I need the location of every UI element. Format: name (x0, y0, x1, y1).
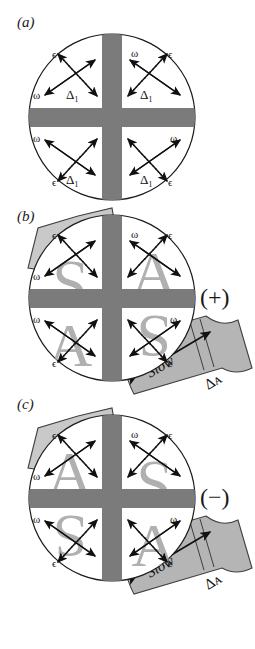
panel-a-diagram: ϵ ω Δ₁ ϵ ω Δ₁ ϵ ω Δ₁ ϵ ω Δ₁ (0, 0, 255, 205)
epsilon-label: ϵ (52, 557, 57, 569)
omega-label: ω (131, 47, 138, 59)
omega-label: ω (33, 270, 40, 282)
omega-label: ω (170, 513, 177, 525)
delta-label: Δ₁ (66, 172, 79, 187)
omega-label: ω (33, 132, 40, 144)
epsilon-label: ϵ (168, 357, 173, 369)
omega-label: ω (33, 470, 40, 482)
epsilon-label: ϵ (52, 357, 57, 369)
omega-label: ω (170, 313, 177, 325)
epsilon-label: ϵ (52, 48, 57, 60)
epsilon-label: ϵ (168, 48, 173, 60)
delta-label: Δ₁ (140, 172, 153, 187)
epsilon-label: ϵ (52, 429, 57, 441)
panel-c-diagram: Slow Δᴀ A S S A (0, 396, 255, 649)
delta-label: Δ₁ (140, 87, 153, 102)
epsilon-label: ϵ (168, 229, 173, 241)
omega-label: ω (131, 428, 138, 440)
epsilon-label: ϵ (168, 557, 173, 569)
omega-label: ω (33, 89, 40, 101)
figure-root: (a) (0, 0, 255, 649)
omega-label: ω (33, 513, 40, 525)
epsilon-label: ϵ (52, 176, 57, 188)
delta-label: Δ₁ (66, 87, 79, 102)
panel-a: (a) (0, 0, 255, 205)
omega-label: ω (33, 313, 40, 325)
epsilon-label: ϵ (168, 176, 173, 188)
panel-c: (c) Slow Δᴀ A S (0, 396, 255, 649)
panel-b: (b) Slow Δᴀ (0, 198, 255, 413)
omega-label: ω (170, 132, 177, 144)
panel-c-sign: (−) (200, 484, 230, 511)
epsilon-label: ϵ (168, 429, 173, 441)
omega-label: ω (131, 228, 138, 240)
panel-b-sign: (+) (200, 284, 230, 311)
epsilon-label: ϵ (52, 229, 57, 241)
